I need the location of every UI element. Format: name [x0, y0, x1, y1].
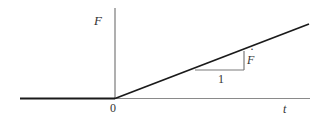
- ramp-diagram: F 0 1 F · t: [0, 0, 329, 120]
- run-label: 1: [218, 72, 224, 86]
- origin-label: 0: [110, 101, 116, 115]
- y-axis-label: F: [93, 13, 103, 28]
- x-axis-label: t: [283, 102, 287, 116]
- curve-ramp-segment: [115, 24, 309, 99]
- rise-dot: ·: [250, 42, 254, 56]
